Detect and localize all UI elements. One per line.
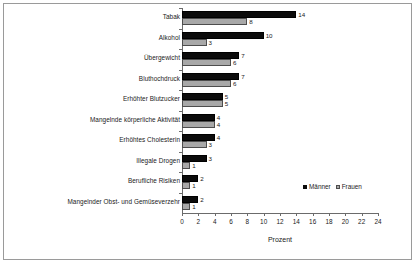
x-axis-tick (362, 213, 363, 216)
bar-maenner (182, 196, 198, 203)
legend-label-maenner: Männer (309, 183, 331, 190)
category-label-row: Berufliche Risiken (14, 178, 180, 186)
y-axis-tick (179, 8, 182, 9)
bar-frauen (182, 59, 231, 66)
bar-value-maenner: 2 (200, 196, 203, 203)
y-axis-tick (179, 49, 182, 50)
y-axis-tick (179, 111, 182, 112)
bar-value-maenner: 4 (217, 134, 220, 141)
x-axis-tick (296, 213, 297, 216)
bar-value-maenner: 3 (209, 155, 212, 162)
bar-value-frauen: 1 (192, 162, 195, 169)
category-label: Bluthochdruck (139, 76, 180, 82)
legend-entry-maenner: Männer (303, 183, 331, 190)
bar-maenner (182, 32, 264, 39)
bar-value-frauen: 5 (225, 100, 228, 107)
category-label: Illegale Drogen (136, 158, 180, 164)
category-label-row: Bluthochdruck (14, 76, 180, 84)
x-axis-tick (182, 213, 183, 216)
legend-swatch-icon-maenner (303, 185, 307, 189)
category-label-row: Mangelnder Obst- und Gemüseverzehr (14, 199, 180, 207)
bar-value-frauen: 8 (249, 18, 252, 25)
category-label-row: Mangelnde körperliche Aktivität (14, 117, 180, 125)
category-label-row: Übergewicht (14, 55, 180, 63)
y-axis-tick (179, 193, 182, 194)
y-axis-tick (179, 131, 182, 132)
category-label-row: Tabak (14, 14, 180, 22)
bar-value-frauen: 1 (192, 182, 195, 189)
bar-maenner (182, 73, 239, 80)
category-label: Übergewicht (144, 55, 180, 61)
category-label: Tabak (163, 14, 180, 20)
bar-frauen (182, 162, 190, 169)
x-axis-title: Prozent (182, 236, 378, 243)
category-label-row: Erhöhter Blutzucker (14, 96, 180, 104)
bar-maenner (182, 93, 223, 100)
category-label: Mangelnde körperliche Aktivität (90, 117, 180, 123)
bar-value-frauen: 4 (217, 121, 220, 128)
x-axis-tick (215, 213, 216, 216)
bar-maenner (182, 175, 198, 182)
category-label: Alkohol (159, 35, 180, 41)
bar-value-maenner: 2 (200, 175, 203, 182)
bar-value-frauen: 3 (209, 39, 212, 46)
bar-maenner (182, 11, 296, 18)
bar-maenner (182, 155, 207, 162)
bar-maenner (182, 114, 215, 121)
x-axis-tick (313, 213, 314, 216)
bar-frauen (182, 141, 207, 148)
chart-legend: Männer Frauen (303, 183, 362, 190)
bar-frauen (182, 100, 223, 107)
category-label: Berufliche Risiken (128, 178, 180, 184)
category-label-row: Alkohol (14, 35, 180, 43)
category-label-row: Illegale Drogen (14, 158, 180, 166)
bar-chart: TabakAlkoholÜbergewichtBluthochdruckErhö… (0, 0, 417, 265)
y-axis-tick (179, 29, 182, 30)
x-axis-tick (378, 213, 379, 216)
bar-value-frauen: 6 (233, 80, 236, 87)
x-axis-tick (247, 213, 248, 216)
x-axis-tick-label: 24 (368, 218, 388, 226)
bar-frauen (182, 18, 247, 25)
bar-value-frauen: 1 (192, 203, 195, 210)
legend-entry-frauen: Frauen (336, 183, 362, 190)
bar-value-maenner: 7 (241, 52, 244, 59)
y-axis-tick (179, 152, 182, 153)
y-axis-tick (179, 70, 182, 71)
y-axis-tick (179, 90, 182, 91)
x-axis-tick (329, 213, 330, 216)
category-label-row: Erhöhtes Cholesterin (14, 137, 180, 145)
bar-value-frauen: 6 (233, 59, 236, 66)
legend-label-frauen: Frauen (342, 183, 362, 190)
bar-frauen (182, 182, 190, 189)
bar-frauen (182, 80, 231, 87)
x-axis-tick (264, 213, 265, 216)
category-label: Mangelnder Obst- und Gemüseverzehr (67, 199, 180, 205)
bar-value-maenner: 7 (241, 73, 244, 80)
x-axis-tick (231, 213, 232, 216)
x-axis-tick (345, 213, 346, 216)
category-label: Erhöhtes Cholesterin (119, 137, 180, 143)
bar-value-maenner: 4 (217, 114, 220, 121)
bar-maenner (182, 52, 239, 59)
bar-value-maenner: 10 (266, 32, 273, 39)
bar-value-frauen: 3 (209, 141, 212, 148)
bar-frauen (182, 121, 215, 128)
x-axis-tick (280, 213, 281, 216)
bar-frauen (182, 203, 190, 210)
legend-swatch-icon-frauen (336, 185, 340, 189)
bar-value-maenner: 5 (225, 93, 228, 100)
category-label: Erhöhter Blutzucker (123, 96, 180, 102)
bar-frauen (182, 39, 207, 46)
x-axis-tick (198, 213, 199, 216)
bar-maenner (182, 134, 215, 141)
y-axis-tick (179, 172, 182, 173)
bar-value-maenner: 14 (298, 11, 305, 18)
